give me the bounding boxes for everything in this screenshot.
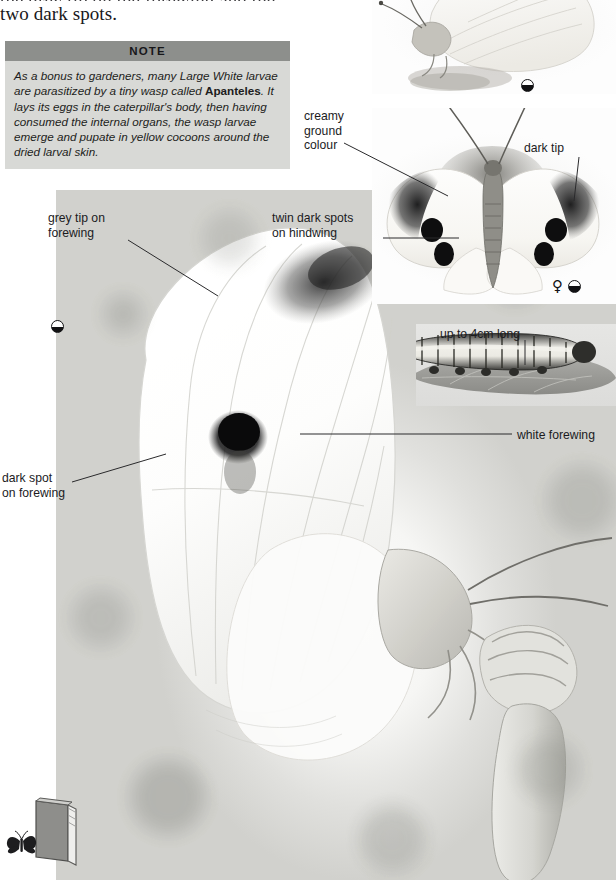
field-guide-page: the grey tip on the forewing and the two… [0, 0, 616, 880]
underside-specimen-artwork [372, 0, 616, 94]
footer-mark [6, 795, 86, 875]
note-species-name: Apanteles [205, 84, 261, 97]
clipped-text-line: the grey tip on the forewing and the [0, 0, 300, 1]
book-icon [36, 798, 76, 865]
half-life-size-icon-female [568, 280, 581, 293]
label-dark-tip: dark tip [524, 141, 606, 156]
label-twin-dark-spots-on-hindwing: twin dark spots on hindwing [272, 211, 392, 240]
label-dark-spot-on-forewing: dark spot on forewing [2, 471, 122, 500]
half-life-size-icon-main [51, 320, 64, 333]
female-upperside-artwork [372, 108, 616, 304]
label-creamy-ground-colour: creamy ground colour [304, 109, 374, 153]
label-white-forewing: white forewing [517, 428, 616, 443]
label-grey-tip-on-forewing: grey tip on forewing [48, 211, 168, 240]
note-heading: NOTE [5, 41, 290, 61]
label-up-to-4cm-long: up to 4cm long [440, 327, 560, 342]
female-symbol-icon: ♀ [552, 279, 563, 294]
note-body: As a bonus to gardeners, many Large Whit… [5, 61, 290, 169]
note-box: NOTE As a bonus to gardeners, many Large… [5, 41, 290, 169]
half-life-size-icon [521, 79, 534, 92]
specimen-plate-female-upperside [372, 108, 616, 304]
butterfly-icon [7, 831, 36, 853]
specimen-plate-underside [372, 0, 616, 94]
body-copy: the grey tip on the forewing and the two… [0, 0, 300, 27]
body-copy-line: two dark spots. [0, 3, 117, 24]
